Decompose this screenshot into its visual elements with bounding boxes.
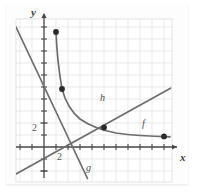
curve-label-f: f	[142, 119, 145, 129]
data-point	[161, 134, 167, 140]
graph-figure: y x 2 2 f g h	[0, 0, 198, 196]
coordinate-plot	[0, 0, 198, 196]
x-axis-label: x	[180, 152, 186, 163]
x-axis-tick-label-2: 2	[57, 152, 62, 162]
y-axis-label: y	[31, 7, 36, 18]
data-point	[101, 125, 107, 131]
y-axis-tick-label-2: 2	[32, 123, 37, 133]
data-point	[59, 86, 65, 92]
curve-label-g: g	[86, 163, 91, 173]
curve-label-h: h	[100, 93, 105, 103]
data-point	[53, 29, 59, 35]
